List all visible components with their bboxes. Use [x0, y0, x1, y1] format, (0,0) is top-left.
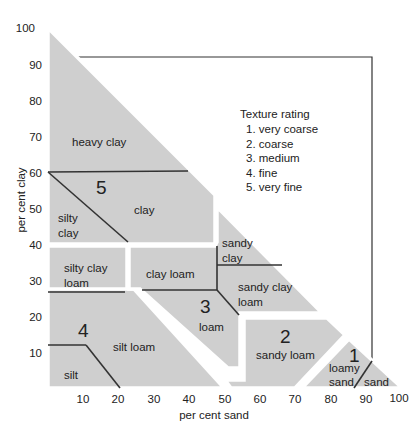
y-tick: 30 — [29, 275, 42, 287]
y-axis: 100 90 80 70 60 50 40 30 20 10 per cent … — [15, 22, 42, 359]
legend-item-3: 3. medium — [246, 152, 300, 164]
y-tick: 90 — [29, 59, 42, 71]
label-silty-clay-loam-2: loam — [64, 277, 89, 289]
legend-title: Texture rating — [240, 108, 310, 120]
x-tick: 20 — [112, 393, 125, 405]
rating-4: 4 — [78, 320, 89, 341]
y-tick: 50 — [29, 203, 42, 215]
label-sandy-loam: sandy loam — [256, 349, 315, 361]
legend-item-4: 4. fine — [246, 167, 277, 179]
x-tick: 100 — [389, 392, 408, 404]
y-axis-title: per cent clay — [15, 167, 27, 232]
label-clay-loam: clay loam — [146, 268, 195, 280]
rating-2: 2 — [280, 326, 291, 347]
legend-item-5: 5. very fine — [246, 181, 302, 193]
legend: Texture rating 1. very coarse 2. coarse … — [240, 108, 318, 193]
soil-texture-triangle: heavy clay 5 clay silty clay silty clay … — [0, 0, 420, 429]
legend-item-1: 1. very coarse — [246, 123, 318, 135]
label-loamy-sand-1: loamy — [329, 362, 360, 374]
x-tick: 50 — [219, 393, 232, 405]
x-tick: 80 — [325, 393, 338, 405]
y-tick: 100 — [16, 22, 35, 34]
x-tick: 30 — [148, 393, 161, 405]
rating-5: 5 — [96, 177, 107, 198]
label-silty-clay-2: clay — [58, 227, 79, 239]
label-sandy-clay-1: sandy — [222, 237, 253, 249]
y-tick: 70 — [29, 131, 42, 143]
x-axis: 10 20 30 40 50 60 70 80 90 100 per cent … — [77, 392, 409, 421]
y-tick: 40 — [29, 239, 42, 251]
x-tick: 40 — [183, 393, 196, 405]
x-tick: 90 — [360, 393, 373, 405]
label-loam: loam — [199, 321, 224, 333]
label-silt-loam: silt loam — [113, 341, 155, 353]
label-sand: sand — [364, 376, 389, 388]
y-tick: 60 — [29, 167, 42, 179]
label-clay: clay — [134, 204, 155, 216]
x-tick: 10 — [77, 393, 90, 405]
y-tick: 80 — [29, 95, 42, 107]
label-loamy-sand-2: sand — [329, 376, 354, 388]
label-silt: silt — [64, 369, 79, 381]
label-heavy-clay: heavy clay — [72, 136, 127, 148]
label-silty-clay-1: silty — [58, 212, 78, 224]
legend-item-2: 2. coarse — [246, 138, 293, 150]
x-tick: 60 — [254, 393, 267, 405]
label-sandy-clay-2: clay — [222, 252, 243, 264]
label-sandy-clay-loam-1: sandy clay — [238, 281, 293, 293]
y-tick: 20 — [29, 311, 42, 323]
boundary-heavy-clay — [48, 171, 188, 172]
y-tick: 10 — [29, 347, 42, 359]
x-axis-title: per cent sand — [179, 409, 249, 421]
x-tick: 70 — [289, 393, 302, 405]
label-silty-clay-loam-1: silty clay — [64, 262, 108, 274]
label-sandy-clay-loam-2: loam — [238, 296, 263, 308]
rating-3: 3 — [200, 296, 211, 317]
